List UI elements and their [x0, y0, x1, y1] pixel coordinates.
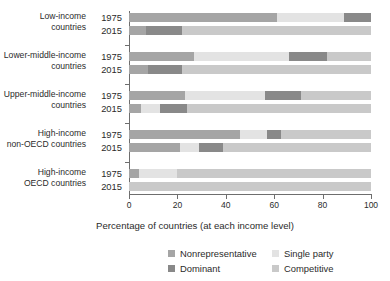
category-label: Lower-middle-incomecountries [4, 50, 86, 71]
chart-legend: NonrepresentativeSingle partyDominantCom… [168, 246, 373, 276]
x-axis-line [129, 194, 372, 195]
bar-segment [177, 169, 371, 178]
year-label: 1975 [96, 129, 122, 140]
year-label: 2015 [96, 103, 122, 114]
bar-stack [129, 91, 371, 100]
year-label: 2015 [96, 181, 122, 192]
legend-item: Competitive [272, 261, 373, 276]
legend-item: Dominant [168, 261, 272, 276]
legend-swatch-icon [272, 250, 279, 257]
bar-segment [187, 104, 371, 113]
y-tick [125, 45, 129, 46]
bar-stack [129, 104, 371, 113]
bar-stack [129, 52, 371, 61]
x-axis-title: Percentage of countries (at each income … [0, 220, 390, 231]
bar-segment [129, 143, 180, 152]
legend-swatch-icon [168, 265, 175, 272]
x-tick-label: 40 [221, 200, 230, 210]
bar-segment [185, 91, 265, 100]
category-label-line: countries [4, 61, 86, 72]
bar-stack [129, 143, 371, 152]
bar-segment [129, 104, 141, 113]
y-axis-line [129, 11, 130, 194]
y-tick [125, 84, 129, 85]
year-label: 1975 [96, 168, 122, 179]
bar-segment [180, 143, 199, 152]
bar-segment [129, 26, 146, 35]
year-label: 1975 [96, 51, 122, 62]
x-tick [177, 195, 178, 199]
bar-segment [182, 65, 371, 74]
bar-segment [301, 91, 371, 100]
bar-segment [129, 130, 240, 139]
x-tick [129, 195, 130, 199]
x-tick-label: 20 [173, 200, 182, 210]
year-label: 2015 [96, 25, 122, 36]
bar-segment [289, 52, 328, 61]
category-label-line: Lower-middle-income [4, 50, 86, 61]
category-label-line: countries [40, 22, 86, 33]
y-tick [125, 162, 129, 163]
bar-segment [223, 143, 371, 152]
year-label: 1975 [96, 12, 122, 23]
bar-segment [344, 13, 371, 22]
bar-segment [240, 130, 267, 139]
legend-swatch-icon [272, 265, 279, 272]
x-tick-label: 0 [127, 200, 132, 210]
bar-segment [141, 104, 160, 113]
bar-segment [129, 182, 371, 191]
legend-item: Nonrepresentative [168, 246, 272, 261]
x-tick [323, 195, 324, 199]
category-label: High-incomeOECD countries [24, 167, 86, 188]
year-label: 2015 [96, 64, 122, 75]
bar-segment [129, 52, 194, 61]
bar-segment [267, 130, 282, 139]
category-label: High-incomenon-OECD countries [7, 128, 86, 149]
bar-segment [129, 169, 139, 178]
x-tick-label: 60 [269, 200, 278, 210]
category-label: Upper-middle-incomecountries [4, 89, 86, 110]
x-tick [226, 195, 227, 199]
bar-stack [129, 130, 371, 139]
category-label-line: non-OECD countries [7, 139, 86, 150]
x-tick [371, 195, 372, 199]
category-label: Low-incomecountries [40, 11, 86, 32]
bar-segment [277, 13, 345, 22]
bar-segment [194, 52, 288, 61]
category-label-line: Upper-middle-income [4, 89, 86, 100]
year-label: 1975 [96, 90, 122, 101]
bar-segment [139, 169, 178, 178]
category-label-line: High-income [24, 167, 86, 178]
bar-segment [146, 26, 182, 35]
bar-stack [129, 182, 371, 191]
legend-item: Single party [272, 246, 373, 261]
y-tick [125, 123, 129, 124]
bar-segment [148, 65, 182, 74]
bar-stack [129, 65, 371, 74]
legend-swatch-icon [168, 250, 175, 257]
category-label-line: countries [4, 100, 86, 111]
stacked-bar-chart: 020406080100 Low-incomecountriesLower-mi… [0, 0, 390, 281]
legend-label: Dominant [180, 263, 220, 274]
bar-segment [327, 52, 371, 61]
bar-segment [265, 91, 301, 100]
bar-stack [129, 169, 371, 178]
x-tick-label: 80 [318, 200, 327, 210]
bar-segment [160, 104, 187, 113]
year-label: 2015 [96, 142, 122, 153]
bar-segment [129, 91, 185, 100]
bar-segment [199, 143, 223, 152]
category-label-line: OECD countries [24, 178, 86, 189]
legend-label: Single party [284, 248, 334, 259]
bar-stack [129, 13, 371, 22]
bar-segment [129, 13, 277, 22]
x-tick [274, 195, 275, 199]
category-label-line: Low-income [40, 11, 86, 22]
bar-segment [129, 65, 148, 74]
bar-stack [129, 26, 371, 35]
bar-segment [281, 130, 371, 139]
x-tick-label: 100 [364, 200, 378, 210]
bar-segment [182, 26, 371, 35]
category-label-line: High-income [7, 128, 86, 139]
legend-label: Competitive [284, 263, 334, 274]
